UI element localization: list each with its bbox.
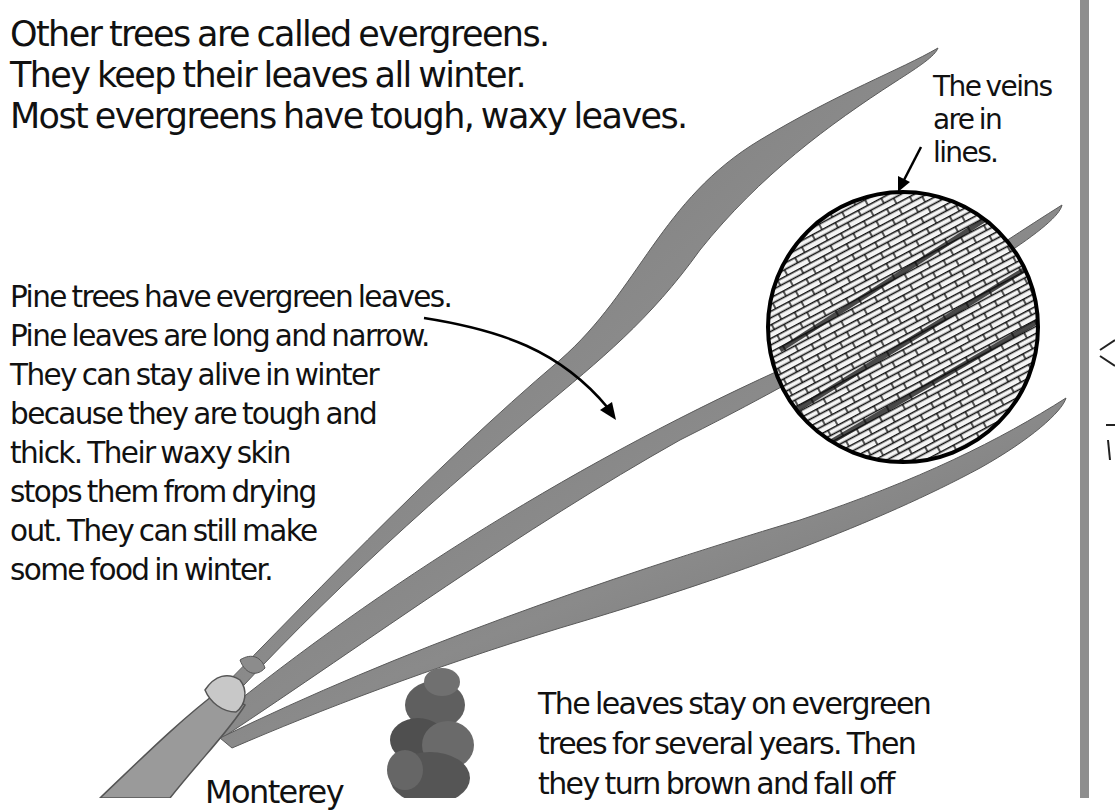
pine-paragraph: Pine trees have evergreen leaves. Pine l… xyxy=(10,278,451,590)
pine-line: stops them from drying xyxy=(10,473,451,512)
pine-line: Pine leaves are long and narrow. xyxy=(10,317,451,356)
veins-line: are in xyxy=(933,103,1052,136)
intro-line: Most evergreens have tough, waxy leaves. xyxy=(10,96,687,137)
intro-line: Other trees are called evergreens. xyxy=(10,14,687,55)
pine-line: out. They can still make xyxy=(10,512,451,551)
veins-line: The veins xyxy=(933,70,1052,103)
magnified-vein-circle xyxy=(768,192,1040,462)
tree-caption: Monterey xyxy=(205,772,343,812)
intro-paragraph: Other trees are called evergreens. They … xyxy=(10,14,687,137)
page-divider xyxy=(1080,0,1089,798)
years-line: The leaves stay on evergreen xyxy=(538,684,930,724)
veins-line: lines. xyxy=(933,136,1052,169)
pine-line: Pine trees have evergreen leaves. xyxy=(10,278,451,317)
years-line: trees for several years. Then xyxy=(538,724,930,764)
pine-line: some food in winter. xyxy=(10,551,451,590)
tree-caption-text: Monterey xyxy=(205,772,343,812)
pine-line: They can stay alive in winter xyxy=(10,356,451,395)
veins-arrow-icon xyxy=(898,147,921,192)
years-line: they turn brown and fall off xyxy=(538,764,930,804)
leaves-stay-paragraph: The leaves stay on evergreen trees for s… xyxy=(538,684,930,804)
pine-line: thick. Their waxy skin xyxy=(10,434,451,473)
next-page-fragment xyxy=(1100,340,1115,460)
veins-caption: The veins are in lines. xyxy=(933,70,1052,169)
pine-line: because they are tough and xyxy=(10,395,451,434)
monterey-pine-tree xyxy=(387,668,474,798)
intro-line: They keep their leaves all winter. xyxy=(10,55,687,96)
